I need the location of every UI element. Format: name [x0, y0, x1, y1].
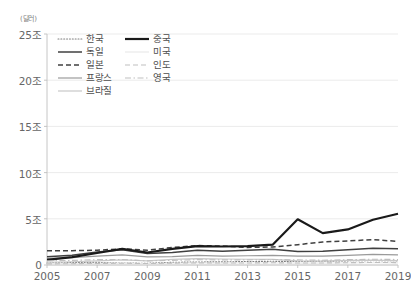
- legend-swatch-영국: [124, 73, 150, 83]
- legend-swatch-브라질: [57, 86, 83, 96]
- legend-swatch-프랑스: [57, 73, 83, 83]
- x-axis-tick-label: 2019: [385, 270, 411, 282]
- legend-item-독일[interactable]: 독일: [57, 46, 112, 58]
- x-axis-tick-label: 2007: [84, 270, 111, 282]
- series-line-프랑스: [47, 254, 398, 258]
- x-axis-tick-label: 2013: [234, 270, 261, 282]
- legend-swatch-독일: [57, 47, 83, 57]
- legend-swatch-미국: [124, 47, 150, 57]
- x-axis-tick-labels: 20052007200920112013201520172019: [0, 270, 410, 290]
- x-axis-tick-label: 2015: [284, 270, 311, 282]
- legend-label: 인도: [153, 60, 170, 70]
- legend-item-인도[interactable]: 인도: [124, 59, 170, 71]
- legend-swatch-중국: [124, 34, 150, 44]
- legend-item-미국[interactable]: 미국: [124, 46, 170, 58]
- legend-swatch-인도: [124, 60, 150, 70]
- x-axis-tick-label: 2009: [134, 270, 161, 282]
- x-axis-tick-label: 2005: [34, 270, 61, 282]
- legend-label: 한국: [86, 34, 103, 44]
- legend-column-1: 한국독일일본프랑스브라질: [57, 33, 112, 97]
- legend-label: 일본: [86, 60, 103, 70]
- x-axis-tick-label: 2017: [334, 270, 361, 282]
- legend-swatch-일본: [57, 60, 83, 70]
- x-axis-tick-label: 2011: [184, 270, 211, 282]
- legend-item-브라질[interactable]: 브라질: [57, 85, 112, 97]
- legend-item-일본[interactable]: 일본: [57, 59, 112, 71]
- legend-label: 미국: [153, 47, 170, 57]
- legend-label: 프랑스: [86, 73, 112, 83]
- series-line-중국: [47, 214, 398, 260]
- series-line-일본: [47, 240, 398, 251]
- legend-item-중국[interactable]: 중국: [124, 33, 170, 45]
- legend-label: 독일: [86, 47, 103, 57]
- legend-swatch-한국: [57, 34, 83, 44]
- legend-label: 영국: [153, 73, 170, 83]
- legend-item-영국[interactable]: 영국: [124, 72, 170, 84]
- legend-item-한국[interactable]: 한국: [57, 33, 112, 45]
- legend-label: 브라질: [86, 86, 112, 96]
- legend-item-프랑스[interactable]: 프랑스: [57, 72, 112, 84]
- legend-label: 중국: [153, 34, 170, 44]
- chart-legend: 한국독일일본프랑스브라질중국미국인도영국: [57, 33, 171, 97]
- legend-column-2: 중국미국인도영국: [124, 33, 170, 97]
